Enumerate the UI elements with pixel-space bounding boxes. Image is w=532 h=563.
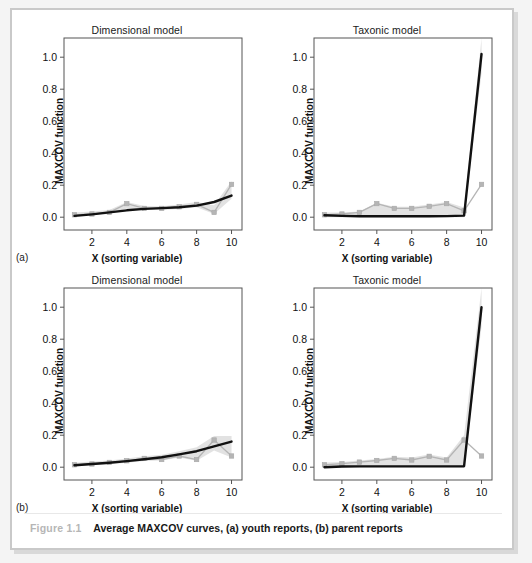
caption-divider: [24, 513, 502, 514]
data-point-marker: [479, 454, 483, 458]
x-tick-label: 4: [124, 486, 130, 498]
x-tick-label: 8: [194, 236, 200, 248]
panel-b-dimensional: 0.00.20.40.60.81.0246810 Dimensional mod…: [12, 266, 262, 516]
data-point-marker: [444, 458, 448, 462]
data-point-marker: [444, 201, 448, 205]
plot-canvas: 0.00.20.40.60.81.0246810: [262, 16, 512, 266]
y-tick-label: 0.8: [42, 83, 57, 95]
plot-canvas: 0.00.20.40.60.81.0246810: [12, 266, 262, 516]
confidence-band: [324, 288, 481, 467]
plot-frame: [64, 288, 242, 480]
y-tick-label: 0.0: [42, 461, 57, 473]
x-tick-label: 2: [339, 486, 345, 498]
figure-number: Figure 1.1: [30, 522, 82, 534]
x-tick-label: 4: [124, 236, 130, 248]
figure-page: 0.00.20.40.60.81.0246810 Dimensional mod…: [0, 0, 532, 563]
x-tick-label: 2: [89, 236, 95, 248]
observed-curve: [74, 184, 231, 214]
y-tick-label: 1.0: [42, 301, 57, 313]
x-tick-label: 8: [194, 486, 200, 498]
figure-caption-text: Average MAXCOV curves, (a) youth reports…: [93, 522, 402, 534]
confidence-band: [324, 38, 481, 217]
plot-canvas: 0.00.20.40.60.81.0246810: [262, 266, 512, 516]
data-point-marker: [392, 456, 396, 460]
y-tick-label: 1.0: [292, 51, 307, 63]
confidence-band: [74, 436, 231, 466]
figure-caption: Figure 1.1 Average MAXCOV curves, (a) yo…: [30, 522, 500, 534]
y-tick-label: 1.0: [292, 301, 307, 313]
x-tick-label: 2: [339, 236, 345, 248]
x-tick-label: 2: [89, 486, 95, 498]
y-tick-label: 0.8: [42, 333, 57, 345]
data-point-marker: [212, 210, 216, 214]
x-tick-label: 10: [226, 236, 238, 248]
y-tick-label: 0.8: [292, 333, 307, 345]
x-axis-label: X (sorting variable): [262, 253, 512, 264]
x-tick-label: 6: [409, 486, 415, 498]
plot-canvas: 0.00.20.40.60.81.0246810: [12, 16, 262, 266]
figure-container: 0.00.20.40.60.81.0246810 Dimensional mod…: [12, 10, 512, 548]
panel-b-taxonic: 0.00.20.40.60.81.0246810 Taxonic model M…: [262, 266, 512, 516]
x-tick-label: 8: [444, 486, 450, 498]
panel-title: Dimensional model: [12, 274, 262, 286]
y-axis-label: MAXCOV function: [54, 98, 65, 184]
data-point-marker: [427, 454, 431, 458]
x-tick-label: 6: [159, 236, 165, 248]
data-point-marker: [357, 210, 361, 214]
data-point-marker: [392, 206, 396, 210]
x-tick-label: 10: [476, 486, 488, 498]
data-point-marker: [357, 460, 361, 464]
panel-letter-a: (a): [16, 252, 28, 263]
data-point-marker: [125, 201, 129, 205]
data-point-marker: [375, 458, 379, 462]
x-tick-label: 10: [476, 236, 488, 248]
data-point-marker: [212, 438, 216, 442]
panel-title: Taxonic model: [262, 24, 512, 36]
x-tick-label: 4: [374, 486, 380, 498]
y-tick-label: 0.0: [42, 211, 57, 223]
panel-a-taxonic: 0.00.20.40.60.81.0246810 Taxonic model M…: [262, 16, 512, 266]
confidence-band: [74, 181, 231, 216]
series-group: [322, 54, 483, 217]
data-point-marker: [410, 206, 414, 210]
data-point-marker: [479, 182, 483, 186]
data-point-marker: [194, 457, 198, 461]
y-axis-label: MAXCOV function: [304, 348, 315, 434]
x-tick-label: 6: [409, 236, 415, 248]
y-tick-label: 1.0: [42, 51, 57, 63]
y-axis-label: MAXCOV function: [304, 98, 315, 184]
data-point-marker: [375, 201, 379, 205]
x-tick-label: 8: [444, 236, 450, 248]
y-tick-label: 0.8: [292, 83, 307, 95]
x-tick-label: 6: [159, 486, 165, 498]
panel-title: Taxonic model: [262, 274, 512, 286]
panel-a-dimensional: 0.00.20.40.60.81.0246810 Dimensional mod…: [12, 16, 262, 266]
data-point-marker: [229, 182, 233, 186]
x-axis-label: X (sorting variable): [12, 253, 262, 264]
data-point-marker: [229, 454, 233, 458]
data-point-marker: [340, 461, 344, 465]
panel-title: Dimensional model: [12, 24, 262, 36]
model-curve: [324, 54, 481, 216]
y-axis-label: MAXCOV function: [54, 348, 65, 434]
data-point-marker: [427, 204, 431, 208]
panel-letter-b: (b): [16, 502, 28, 513]
y-tick-label: 0.0: [292, 461, 307, 473]
x-tick-label: 10: [226, 486, 238, 498]
data-point-marker: [410, 458, 414, 462]
x-tick-label: 4: [374, 236, 380, 248]
y-tick-label: 0.0: [292, 211, 307, 223]
